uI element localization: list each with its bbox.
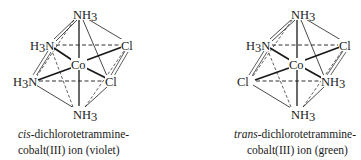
- isomer-figure: NH3 H3N Cl Co H3N Cl NH3: [0, 0, 361, 160]
- trans-caption-line2: cobalt(III) ion (green): [234, 142, 356, 158]
- co-bond: [305, 47, 340, 60]
- cis-caption-line2: cobalt(III) ion (violet): [18, 144, 120, 156]
- atom-front-left-cl: Cl: [237, 75, 249, 89]
- edge: [330, 52, 346, 76]
- co-bond: [270, 48, 290, 60]
- co-bond: [255, 68, 289, 80]
- atom-center-co: Co: [289, 58, 304, 72]
- edge: [327, 51, 343, 75]
- edge: [272, 20, 295, 41]
- atom-front-right-nh3: NH3: [321, 75, 345, 91]
- atom-top-nh3: NH3: [291, 8, 315, 24]
- atom-bottom-nh3: NH3: [291, 108, 315, 124]
- cis-caption: cis-dichlorotetrammine- cobalt(III) ion …: [18, 126, 129, 158]
- atom-back-right-cl: Cl: [339, 39, 351, 53]
- trans-caption-line1: trans-dichlorotetrammine-: [234, 128, 356, 140]
- edge: [302, 86, 325, 108]
- trans-caption: trans-dichlorotetrammine- cobalt(III) io…: [234, 126, 356, 158]
- co-bond: [304, 68, 322, 78]
- atom-back-left-h3n: H3N: [246, 39, 270, 55]
- cis-caption-line1: cis-dichlorotetrammine-: [18, 128, 129, 140]
- edge: [252, 52, 267, 76]
- edge: [253, 85, 291, 108]
